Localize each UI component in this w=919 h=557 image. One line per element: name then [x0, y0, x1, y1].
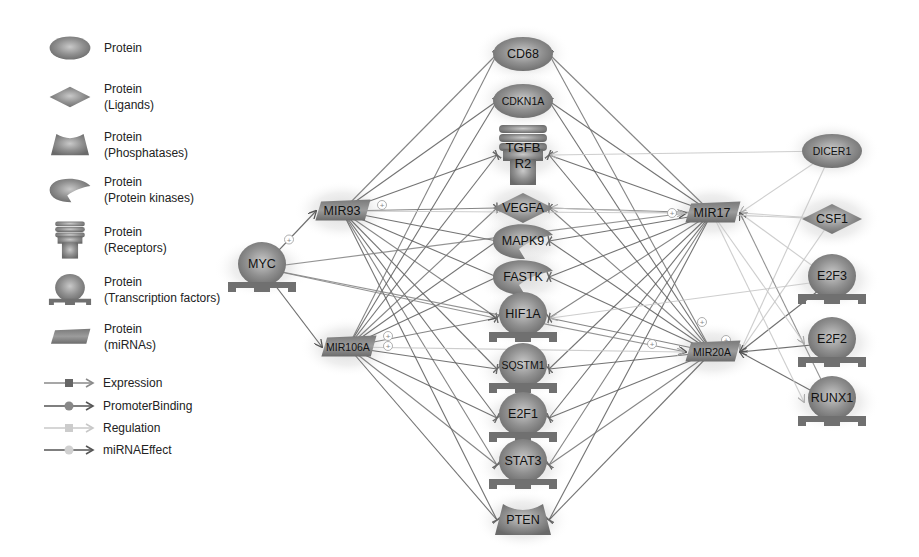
legend-edge-expression: Expression: [44, 376, 162, 390]
edge: [549, 213, 712, 277]
node-label: MAPK9: [502, 234, 544, 248]
legend-sublabel: (Phosphatases): [104, 146, 188, 160]
legend-edge-label: PromoterBinding: [103, 399, 192, 413]
node-label: FASTK: [503, 270, 543, 284]
edge: [549, 101, 712, 213]
legend-label: Protein: [104, 275, 142, 289]
svg-text:+: +: [670, 209, 675, 218]
node-label: MIR93: [324, 204, 361, 218]
edge: [549, 352, 712, 520]
node-cdkn1a[interactable]: CDKN1A: [493, 84, 553, 118]
node-label: HIF1A: [505, 307, 541, 321]
node-label: E2F2: [817, 332, 847, 346]
node-mir106a[interactable]: MIR106A: [321, 336, 376, 357]
legend-label: Protein: [104, 82, 142, 96]
node-dicer1[interactable]: DICER1: [802, 134, 862, 168]
receptor-shape: [62, 242, 78, 258]
node-label: RUNX1: [811, 391, 853, 405]
node-label: MIR106A: [326, 341, 370, 353]
node-mir17[interactable]: MIR17: [685, 202, 740, 223]
legend-item-phosphatase: Protein(Phosphatases): [51, 130, 188, 160]
edge: [549, 54, 712, 213]
legend-edge-regulation: Regulation: [44, 421, 160, 435]
diamond-shape: [50, 87, 91, 107]
legend-label: Protein: [104, 225, 142, 239]
node-label: PTEN: [506, 513, 539, 527]
svg-text:+: +: [287, 236, 292, 245]
legend-label: Protein: [104, 175, 142, 189]
legend-label: Protein: [104, 41, 142, 55]
legend-item-tf: Protein(Transcription factors): [49, 274, 220, 305]
legend-item-ellipse: Protein: [50, 36, 142, 59]
legend-edge-label: Expression: [103, 376, 162, 390]
edge: [342, 211, 497, 277]
node-label: DICER1: [813, 145, 852, 157]
network-diagram: ProteinProtein(Ligands)Protein(Phosphata…: [0, 0, 919, 557]
edge: [348, 347, 497, 465]
legend-edge-mirnaeffect: miRNAEffect: [44, 443, 172, 457]
node-label: VEGFA: [502, 201, 544, 215]
legend: ProteinProtein(Ligands)Protein(Phosphata…: [44, 36, 220, 457]
edge: [342, 101, 497, 211]
node-label: SQSTM1: [501, 359, 544, 371]
node-label: MIR17: [694, 206, 731, 220]
legend-item-mirna: Protein(miRNAs): [51, 322, 156, 352]
node-mir20a[interactable]: MIR20A: [685, 341, 740, 362]
edge: [342, 54, 497, 211]
svg-text:+: +: [386, 342, 391, 351]
node-label: STAT3: [504, 454, 541, 468]
legend-sublabel: (Receptors): [104, 241, 167, 255]
node-label: TGFB: [506, 140, 541, 155]
node-label-line2: R2: [515, 156, 532, 171]
node-mir93[interactable]: MIR93: [315, 200, 370, 221]
legend-sublabel: (miRNAs): [104, 338, 156, 352]
legend-sublabel: (Transcription factors): [104, 291, 220, 305]
node-label: CDKN1A: [502, 95, 545, 107]
node-label: MIR20A: [693, 346, 731, 358]
svg-text:+: +: [386, 332, 391, 341]
node-label: MYC: [248, 257, 276, 271]
legend-sublabel: (Protein kinases): [104, 191, 194, 205]
svg-text:+: +: [700, 318, 705, 327]
kinase-shape: [50, 179, 91, 203]
node-label: CSF1: [816, 212, 848, 226]
node-label: E2F3: [817, 269, 847, 283]
legend-item-receptor: Protein(Receptors): [55, 221, 167, 258]
svg-text:+: +: [650, 340, 655, 349]
legend-label: Protein: [104, 322, 142, 336]
legend-edge-label: miRNAEffect: [103, 443, 172, 457]
svg-text:+: +: [380, 201, 385, 210]
legend-item-kinase: Protein(Protein kinases): [50, 175, 194, 205]
node-label: E2F1: [508, 407, 538, 421]
node-cd68[interactable]: CD68: [493, 37, 553, 71]
ellipse-shape: [50, 36, 91, 59]
legend-label: Protein: [104, 130, 142, 144]
mirna-shape: [51, 329, 90, 344]
phosphatase-shape: [51, 134, 89, 155]
legend-edge-promoterbinding: PromoterBinding: [44, 399, 192, 413]
legend-edge-label: Regulation: [103, 421, 160, 435]
edge: [348, 347, 497, 520]
edge: [549, 213, 712, 318]
tf-shape: [55, 274, 85, 301]
edge: [342, 211, 497, 418]
legend-sublabel: (Ligands): [104, 98, 154, 112]
node-label: CD68: [507, 47, 539, 61]
legend-item-diamond: Protein(Ligands): [50, 82, 154, 112]
